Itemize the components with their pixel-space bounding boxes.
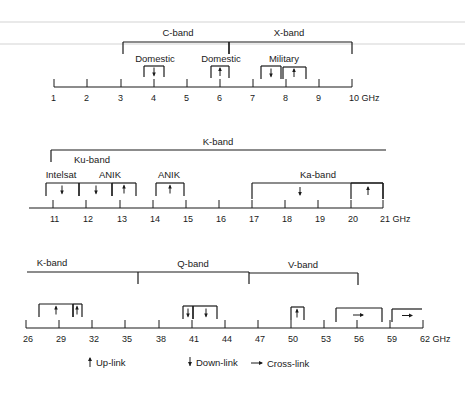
right-arrow-icon (353, 313, 364, 317)
service-label: ANIK (158, 169, 181, 180)
legend-crosslink-label: Cross-link (267, 358, 309, 369)
up-arrow-icon (75, 306, 79, 315)
axis-tick-label: 44 (222, 334, 232, 344)
axis-tick-label: 2 (84, 93, 89, 103)
down-arrow-icon (186, 309, 190, 318)
allocation-bracket: Domestic (135, 53, 175, 77)
band-bracket: Ku-band (74, 154, 110, 165)
axis-tick-label: 17 (249, 214, 259, 224)
axis-tick-label: 29 (56, 334, 66, 344)
band-label: K-band (203, 136, 234, 147)
down-arrow-icon (94, 186, 98, 195)
legend-downlink: Down-link (188, 357, 238, 368)
band-label: Ku-band (74, 154, 110, 165)
axis-tick-label: 19 (315, 214, 325, 224)
axis-tick-label: 3 (118, 93, 123, 103)
frequency-axis: 1112131415161718192021 GHz (29, 200, 411, 224)
axis-tick-label: 20 (348, 214, 358, 224)
band-bracket: X-band (229, 27, 352, 54)
axis-tick-label: 35 (122, 334, 132, 344)
axis-tick-label: 6 (217, 93, 222, 103)
allocation-bracket (183, 306, 193, 319)
service-label: Military (269, 53, 299, 64)
axis-tick-label: 15 (183, 214, 193, 224)
down-arrow-icon (60, 186, 64, 195)
band-label: K-band (37, 257, 68, 268)
up-arrow-icon (54, 306, 58, 315)
allocation-bracket (112, 183, 136, 196)
allocation-bracket (73, 304, 82, 317)
band-bracket: C-band (123, 27, 229, 54)
axis-tick-label: 16 (216, 214, 226, 224)
axis-tick-label: 5 (184, 93, 189, 103)
axis-tick-label: 53 (321, 334, 331, 344)
allocation-bracket (283, 67, 306, 79)
axis-tick-label: 9 (316, 93, 321, 103)
axis-tick-label: 47 (255, 334, 265, 344)
axis-tick-label: 13 (117, 214, 127, 224)
axis-tick-label: 8 (283, 93, 288, 103)
axis-tick-label: 18 (282, 214, 292, 224)
allocation-bracket: Ka-band (252, 169, 383, 199)
allocation-bracket (39, 304, 73, 317)
service-label: Domestic (201, 53, 241, 64)
band-label: X-band (274, 27, 305, 38)
allocation-bracket (392, 309, 422, 322)
service-label: Domestic (135, 53, 175, 64)
band-bracket: K-band (27, 257, 138, 284)
band-bracket: V-band (249, 259, 358, 285)
axis-tick-label: 1 (51, 93, 56, 103)
down-arrow-icon (152, 68, 156, 77)
legend-downlink-label: Down-link (196, 357, 238, 368)
legend-uplink: Up-link (88, 357, 126, 368)
frequency-allocation-diagram: 12345678910 GHzC-bandX-bandDomesticDomes… (0, 0, 465, 393)
axis-tick-label: 41 (189, 334, 199, 344)
axis-tick-label: 56 (354, 334, 364, 344)
legend-crosslink: Cross-link (251, 358, 309, 369)
up-arrow-icon (366, 186, 370, 195)
up-arrow-icon (168, 185, 172, 194)
axis-tick-label: 32 (89, 334, 99, 344)
up-arrow-icon (292, 68, 296, 77)
service-label: ANIK (99, 169, 122, 180)
right-arrow-icon (251, 361, 263, 365)
frequency-axis: 26293235384144475053565962 GHz (23, 320, 451, 344)
legend-uplink-label: Up-link (96, 357, 126, 368)
band-label: V-band (288, 259, 318, 270)
up-arrow-icon (295, 309, 299, 318)
axis-tick-label: 62 GHz (420, 334, 451, 344)
band-label: C-band (162, 27, 193, 38)
down-arrow-icon (188, 357, 192, 366)
axis-tick-label: 12 (83, 214, 93, 224)
axis-tick-label: 38 (156, 334, 166, 344)
right-arrow-icon (402, 314, 413, 318)
allocation-bracket (291, 307, 304, 320)
allocation-bracket: Intelsat (46, 169, 79, 196)
up-arrow-icon (122, 185, 126, 194)
axis-tick-label: 4 (151, 93, 156, 103)
allocation-bracket (336, 308, 382, 322)
axis-tick-label: 10 GHz (349, 93, 380, 103)
up-arrow-icon (88, 357, 92, 367)
service-label: Intelsat (46, 169, 77, 180)
band-row-2: 1112131415161718192021 GHzK-bandKu-bandI… (29, 136, 411, 224)
frequency-axis: 12345678910 GHz (51, 79, 380, 103)
legend: Up-link Down-link Cross-link (88, 357, 309, 369)
down-arrow-icon (204, 309, 208, 318)
allocation-bracket (351, 183, 383, 199)
axis-tick-label: 26 (23, 334, 33, 344)
axis-tick-label: 50 (288, 334, 298, 344)
down-arrow-icon (269, 69, 273, 78)
band-label: Q-band (177, 258, 209, 269)
axis-tick-label: 7 (250, 93, 255, 103)
band-bracket: Q-band (138, 258, 249, 284)
down-arrow-icon (298, 187, 302, 196)
axis-tick-label: 14 (150, 214, 160, 224)
axis-tick-label: 11 (50, 214, 59, 224)
axis-tick-label: 21 GHz (380, 214, 411, 224)
allocation-bracket: Domestic (201, 53, 241, 78)
axis-tick-label: 59 (387, 334, 397, 344)
band-row-3: 26293235384144475053565962 GHzK-bandQ-ba… (23, 257, 451, 344)
service-label: Ka-band (300, 169, 336, 180)
band-row-1: 12345678910 GHzC-bandX-bandDomesticDomes… (51, 27, 380, 103)
